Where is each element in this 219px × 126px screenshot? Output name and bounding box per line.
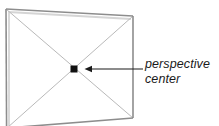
perspective-diagram: perspective center — [0, 0, 219, 126]
diagonal-tl-br — [6, 9, 133, 118]
annotation-arrow — [85, 66, 144, 72]
diagonal-tr-bl — [7, 16, 133, 126]
quad-edge-left — [6, 9, 7, 126]
annotation-label: perspective center — [145, 57, 210, 87]
annotation-label-line1: perspective — [145, 57, 210, 72]
perspective-diagonals — [6, 9, 133, 126]
perspective-center-dot — [71, 66, 78, 73]
annotation-label-line2: center — [145, 72, 210, 87]
perspective-quadrilateral — [6, 9, 133, 126]
quad-edge-bottom — [7, 118, 133, 126]
arrow-head-icon — [85, 66, 93, 72]
